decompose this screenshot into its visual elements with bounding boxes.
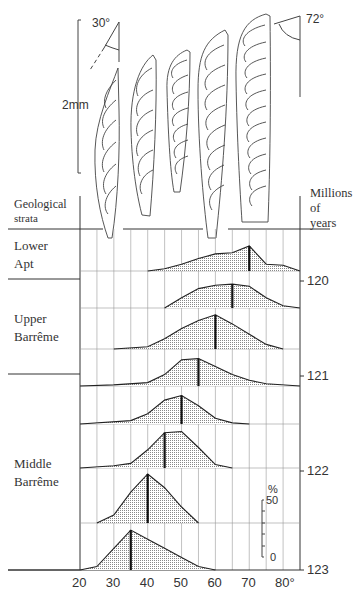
scale-bar: [78, 20, 81, 173]
time-tick-label: 122: [307, 463, 329, 478]
angle-72-marker: [274, 16, 300, 97]
distribution-row: [97, 474, 199, 523]
left-header: Geological strata: [14, 197, 67, 225]
percent-scale: [262, 500, 265, 557]
angle-right-label: 72°: [306, 12, 324, 27]
x-tick-label: 40: [140, 575, 154, 590]
distribution-row: [148, 246, 300, 271]
x-tick-label: 70: [241, 575, 255, 590]
distribution-row: [165, 284, 300, 308]
stratum-middle-barreme: Middle Barrême: [14, 455, 59, 491]
shell-drawings: [95, 14, 271, 238]
left-header-line-1: Geological: [14, 197, 67, 211]
right-header-line-2: of: [310, 201, 352, 216]
time-tick-label: 123: [307, 562, 329, 577]
stratum-label-line: Barrême: [14, 328, 59, 346]
distribution-row: [80, 396, 249, 425]
stratum-label-line: Middle: [14, 455, 59, 473]
stratum-lower-apt: Lower Apt: [14, 237, 48, 273]
right-header-line-1: Millions: [310, 186, 352, 201]
stratum-label-line: Upper: [14, 310, 59, 328]
stratum-label-line: Apt: [14, 255, 48, 273]
distribution-area: [80, 359, 300, 386]
shell-2: [131, 55, 156, 216]
stratum-upper-barreme: Upper Barrême: [14, 310, 59, 346]
stratum-label-line: Lower: [14, 237, 48, 255]
figure-canvas: [0, 0, 364, 601]
x-tick-label: 60: [207, 575, 221, 590]
time-tick-label: 121: [307, 368, 329, 383]
x-tick-label: 30: [106, 575, 120, 590]
scale-bar-label: 2mm: [62, 98, 89, 113]
percent-max-label: 50: [266, 493, 278, 508]
x-tick-label: 50: [174, 575, 188, 590]
x-tick-label: 80°: [275, 575, 295, 590]
shell-5: [236, 14, 270, 222]
right-header: Millions of years: [310, 186, 352, 231]
shell-4: [198, 30, 228, 238]
shell-1: [95, 68, 119, 238]
stratum-label-line: Barrême: [14, 473, 59, 491]
angle-left-label: 30°: [92, 16, 110, 31]
x-tick-label: 20: [72, 575, 86, 590]
distribution-row: [80, 432, 232, 469]
right-header-line-3: years: [310, 216, 352, 231]
shell-3: [167, 50, 190, 192]
time-tick-label: 120: [307, 273, 329, 288]
distribution-area: [80, 432, 232, 469]
percent-min-label: 0: [270, 550, 276, 565]
time-axis: [300, 281, 304, 570]
distribution-row: [80, 359, 300, 386]
distribution-rows: [80, 246, 300, 570]
left-header-line-2: strata: [14, 211, 67, 225]
